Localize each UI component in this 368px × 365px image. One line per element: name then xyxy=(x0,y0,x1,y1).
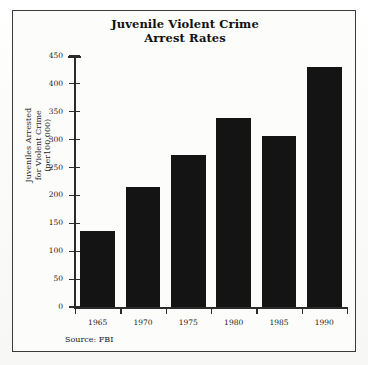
bar-1970 xyxy=(126,187,160,307)
y-tick-label-300: 300 xyxy=(29,135,63,144)
y-tick-label-250: 250 xyxy=(29,163,63,172)
x-tick-label-1965: 1965 xyxy=(76,318,120,327)
chart-frame: Juvenile Violent Crime Arrest Rates Juve… xyxy=(12,10,356,352)
bar-1965 xyxy=(80,231,114,307)
y-tick-50 xyxy=(69,279,80,280)
bar-1990 xyxy=(307,67,341,307)
x-tick-label-1980: 1980 xyxy=(212,318,256,327)
y-tick-label-450: 450 xyxy=(29,51,63,60)
chart-figure: Juvenile Violent Crime Arrest Rates Juve… xyxy=(0,0,368,365)
x-tick-label-1970: 1970 xyxy=(121,318,165,327)
y-tick-250 xyxy=(69,167,80,168)
y-tick-100 xyxy=(69,251,80,252)
source-note: Source: FBI xyxy=(65,335,113,344)
x-tick-1965 xyxy=(75,307,76,314)
y-tick-label-50: 50 xyxy=(29,274,63,283)
x-tick-1975 xyxy=(166,307,167,314)
y-tick-label-150: 150 xyxy=(29,218,63,227)
y-tick-label-350: 350 xyxy=(29,107,63,116)
bar-1980 xyxy=(216,118,250,307)
x-tick-1970 xyxy=(120,307,121,314)
y-axis-line xyxy=(74,56,76,308)
x-tick-1990 xyxy=(302,307,303,314)
y-tick-label-200: 200 xyxy=(29,190,63,199)
y-tick-350 xyxy=(69,111,80,112)
chart-title-line-2: Arrest Rates xyxy=(13,31,357,45)
chart-title: Juvenile Violent Crime Arrest Rates xyxy=(13,17,357,45)
y-tick-200 xyxy=(69,195,80,196)
y-tick-label-400: 400 xyxy=(29,79,63,88)
x-tick-label-1975: 1975 xyxy=(166,318,210,327)
y-tick-400 xyxy=(69,83,80,84)
y-tick-label-0: 0 xyxy=(29,302,63,311)
bar-1975 xyxy=(171,155,205,307)
plot-area: Juvenile Violent Crime Arrest Rates Juve… xyxy=(13,11,357,353)
x-tick-1985 xyxy=(256,307,257,314)
chart-title-line-1: Juvenile Violent Crime xyxy=(13,17,357,31)
y-tick-450 xyxy=(69,55,80,56)
x-tick-1980 xyxy=(211,307,212,314)
x-tick-label-1990: 1990 xyxy=(302,318,346,327)
y-tick-label-100: 100 xyxy=(29,246,63,255)
y-tick-300 xyxy=(69,139,80,140)
bar-1985 xyxy=(262,136,296,307)
x-tick-label-1985: 1985 xyxy=(257,318,301,327)
x-tick-end xyxy=(347,307,348,314)
y-tick-150 xyxy=(69,223,80,224)
